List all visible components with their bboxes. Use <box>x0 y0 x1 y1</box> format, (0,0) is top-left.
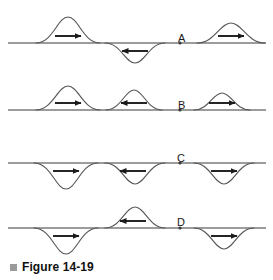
pulse-d-2-curve <box>105 207 165 228</box>
row-label-a: A <box>178 33 186 44</box>
figure-caption-text: Figure 14-19 <box>22 261 94 273</box>
square-bullet-icon <box>10 264 17 271</box>
pulse-a-1-curve <box>36 17 100 43</box>
pulse-c-2-curve <box>105 163 165 184</box>
pulse-b-3-curve <box>194 93 250 110</box>
pulse-a-2-curve <box>105 43 165 63</box>
pulse-row-a <box>8 17 266 63</box>
figure-caption: Figure 14-19 <box>10 261 94 273</box>
pulse-b-2-curve <box>106 90 162 110</box>
pulse-a-3-curve <box>197 23 265 43</box>
pulse-c-3-curve <box>194 163 254 184</box>
row-label-b: B <box>178 100 186 111</box>
pulse-d-3-curve <box>194 228 254 249</box>
wave-pulse-figure: A B C D Figure 14-19 <box>0 0 273 280</box>
pulse-c-1-curve <box>34 163 98 189</box>
pulse-d-1-curve <box>34 228 98 254</box>
pulse-row-c <box>8 161 266 189</box>
rows-group <box>8 17 266 254</box>
pulse-row-b <box>8 86 266 112</box>
row-label-d: D <box>177 217 185 228</box>
row-label-c: C <box>177 153 185 164</box>
pulse-b-1-curve <box>36 86 100 110</box>
pulse-row-d <box>8 207 266 254</box>
wave-pulse-diagram <box>0 0 273 280</box>
